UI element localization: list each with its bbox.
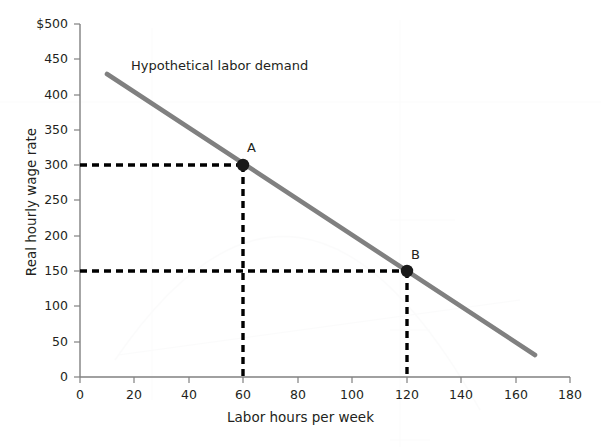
x-tick-label-140: 140: [441, 389, 481, 402]
data-point-a: [237, 159, 249, 171]
labor-demand-chart-figure: $500 450 400 350 300 250 200 150 100 50 …: [0, 0, 601, 447]
x-tick-label-160: 160: [496, 389, 536, 402]
y-tick-label-100: 100: [14, 300, 68, 313]
y-tick-label-0: 0: [14, 371, 68, 384]
y-tick-label-500: $500: [14, 18, 68, 31]
demand-line: [107, 74, 535, 355]
demand-line-label: Hypothetical labor demand: [131, 58, 308, 73]
y-tick-label-50: 50: [14, 336, 68, 349]
x-tick-label-180: 180: [550, 389, 590, 402]
x-tick-label-120: 120: [387, 389, 427, 402]
data-point-label-b: B: [411, 247, 420, 262]
x-axis-title: Labor hours per week: [0, 409, 601, 425]
y-axis-ticks: [74, 24, 80, 377]
y-axis-title: Real hourly wage rate: [23, 107, 39, 297]
x-tick-label-40: 40: [169, 389, 209, 402]
x-tick-label-0: 0: [60, 389, 100, 402]
x-tick-label-20: 20: [114, 389, 154, 402]
x-tick-label-100: 100: [332, 389, 372, 402]
x-tick-label-60: 60: [223, 389, 263, 402]
data-point-label-a: A: [247, 140, 256, 155]
x-axis-ticks: [80, 377, 570, 383]
data-point-b: [401, 265, 413, 277]
y-tick-label-450: 450: [14, 53, 68, 66]
y-tick-label-400: 400: [14, 89, 68, 102]
x-tick-label-80: 80: [278, 389, 318, 402]
